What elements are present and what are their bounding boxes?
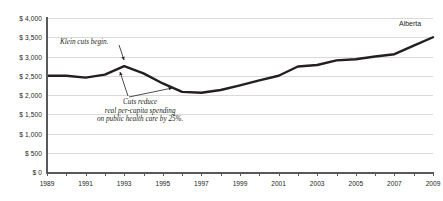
chart-container: $ 4,000 $ 3,500 $ 3,000 $ 2,500 $ 2,000 … (0, 0, 443, 201)
x-tick-label: 2009 (426, 180, 441, 187)
annotation-cuts-line-2: real per-capita spending (97, 107, 183, 116)
x-tick (182, 172, 183, 176)
x-tick (394, 172, 395, 176)
y-tick-label: $ 2,500 (0, 72, 42, 79)
x-tick (259, 172, 260, 176)
x-tick (279, 172, 280, 176)
x-tick (414, 172, 415, 176)
x-tick-label: 1999 (233, 180, 248, 187)
y-tick-label: $ 2,000 (0, 92, 42, 99)
x-tick (221, 172, 222, 176)
y-tick-label: $ 1,000 (0, 130, 42, 137)
x-tick-label: 2005 (348, 180, 363, 187)
x-tick (356, 172, 357, 176)
x-tick-label: 1991 (78, 180, 93, 187)
y-tick-label: $ 3,000 (0, 53, 42, 60)
x-tick-label: 1993 (117, 180, 132, 187)
x-tick (375, 172, 376, 176)
x-tick (337, 172, 338, 176)
y-tick-label: $ 4,000 (0, 15, 42, 22)
x-tick (144, 172, 145, 176)
y-axis-line (46, 17, 48, 173)
x-tick (433, 172, 434, 176)
x-tick-label: 2007 (387, 180, 402, 187)
y-tick-label: $ 500 (0, 149, 42, 156)
x-tick (86, 172, 87, 176)
x-tick-label: 2003 (310, 180, 325, 187)
annotation-cuts-line-3: on public health care by 25%. (97, 115, 183, 124)
x-tick-label: 2001 (271, 180, 286, 187)
x-tick (124, 172, 125, 176)
y-tick-label: $ 3,500 (0, 34, 42, 41)
y-axis-labels: $ 4,000 $ 3,500 $ 3,000 $ 2,500 $ 2,000 … (0, 0, 44, 201)
annotation-cuts-line-1: Cuts reduce (97, 98, 183, 107)
x-tick (317, 172, 318, 176)
x-tick-label: 1997 (194, 180, 209, 187)
series-label-alberta: Alberta (399, 20, 421, 27)
y-tick-label: $ 1,500 (0, 111, 42, 118)
y-tick-label: $ 0 (0, 169, 42, 176)
x-tick (201, 172, 202, 176)
x-tick (105, 172, 106, 176)
x-tick (240, 172, 241, 176)
annotation-cuts-reduce: Cuts reduce real per-capita spending on … (97, 98, 183, 124)
x-tick (298, 172, 299, 176)
x-tick (163, 172, 164, 176)
annotation-klein-line-1: Klein cuts begin. (60, 38, 109, 47)
x-tick (66, 172, 67, 176)
x-tick (47, 172, 48, 176)
x-tick-label: 1989 (40, 180, 55, 187)
annotation-klein-cuts: Klein cuts begin. (60, 38, 109, 47)
x-tick-label: 1995 (155, 180, 170, 187)
